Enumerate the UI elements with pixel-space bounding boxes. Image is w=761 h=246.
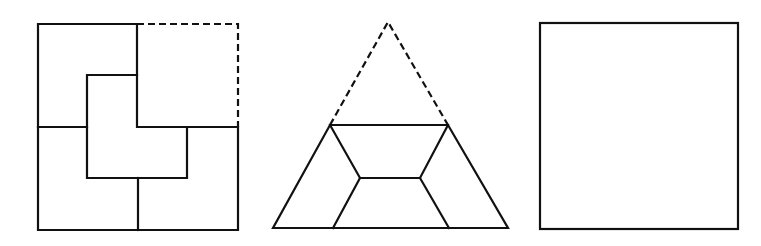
dashed-missing-quadrant <box>137 24 238 127</box>
figure-square-with-L <box>38 24 238 230</box>
lower-right-divider <box>420 178 449 228</box>
figure-triangle-dissection <box>273 22 508 228</box>
figure-empty-square <box>540 23 738 229</box>
empty-square-outline <box>540 23 738 229</box>
lower-left-divider <box>333 178 360 228</box>
trapezoid-outline <box>273 125 508 228</box>
inner-hexagon-top <box>330 125 448 178</box>
dissection-diagram <box>0 0 761 246</box>
dashed-triangle-top <box>330 22 448 125</box>
